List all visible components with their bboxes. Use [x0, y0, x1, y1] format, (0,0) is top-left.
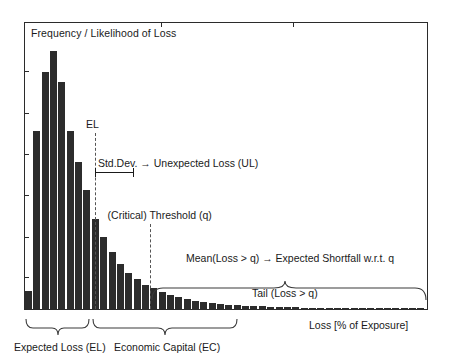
histogram-bar [401, 308, 408, 309]
histogram-bar [142, 285, 149, 310]
critical-threshold-marker-line [150, 224, 151, 309]
y-axis-tick [24, 71, 29, 72]
expected-shortfall-annotation: Mean(Loss > q) → Expected Shortfall w.r.… [186, 252, 394, 264]
histogram-bar [67, 131, 74, 309]
histogram-bar [25, 291, 32, 309]
x-axis-title: Loss [% of Exposure] [309, 319, 408, 331]
histogram-bar [100, 237, 107, 309]
histogram-bar [125, 273, 132, 309]
histogram-bar [209, 303, 216, 309]
histogram-bar [317, 308, 324, 309]
histogram-bar [276, 307, 283, 309]
std-dev-cap-right [133, 168, 134, 177]
histogram-bar [351, 308, 358, 309]
histogram-bar [200, 302, 207, 309]
histogram-bar [284, 307, 291, 309]
histogram-bar [167, 295, 174, 309]
histogram-bar [75, 162, 82, 309]
std-dev-stem [95, 172, 134, 173]
histogram-bar [242, 306, 249, 309]
histogram-bar [175, 297, 182, 309]
histogram-bar [58, 82, 65, 309]
histogram-bar [292, 307, 299, 309]
histogram-bar [342, 308, 349, 309]
expected-loss-marker-line [95, 133, 96, 309]
histogram-bar [42, 72, 49, 309]
histogram-bar [367, 308, 374, 309]
histogram-bar [301, 308, 308, 309]
histogram-bar [392, 308, 399, 309]
histogram-bar [33, 131, 40, 309]
histogram-bar [159, 292, 166, 309]
expected-loss-brace [26, 319, 89, 335]
x-axis-tick [293, 22, 294, 27]
histogram-bar [334, 308, 341, 309]
histogram-bar [409, 308, 416, 309]
expected-loss-marker-label: EL [86, 118, 99, 130]
y-axis-tick [24, 277, 29, 278]
histogram-bar [384, 308, 391, 309]
x-axis-tick [161, 22, 162, 27]
expected-loss-brace-label: Expected Loss (EL) [14, 341, 106, 353]
histogram-bar [192, 301, 199, 310]
histogram-bar [217, 304, 224, 309]
y-axis-tick [24, 154, 29, 155]
histogram-bar [250, 306, 257, 309]
y-axis-tick [24, 195, 29, 196]
tail-annotation: Tail (Loss > q) [252, 287, 318, 299]
histogram-bar [134, 279, 141, 309]
histogram-bar [50, 51, 57, 309]
y-axis-tick [24, 237, 29, 238]
histogram-bar [326, 308, 333, 309]
histogram-bar [234, 305, 241, 309]
histogram-bar [376, 308, 383, 309]
histogram-bar [225, 305, 232, 309]
economic-capital-brace-label: Economic Capital (EC) [114, 341, 220, 353]
histogram-bar [117, 264, 124, 309]
histogram-bar [417, 308, 424, 309]
figure-canvas: Frequency / Likelihood of Loss EL (Criti… [0, 0, 451, 361]
std-dev-measure-bar [95, 168, 134, 177]
histogram-bar [267, 307, 274, 309]
histogram-bar [109, 252, 116, 309]
economic-capital-brace [93, 319, 237, 335]
histogram-bar [184, 299, 191, 309]
critical-threshold-marker-label: (Critical) Threshold (q) [108, 209, 212, 221]
histogram-bar [150, 288, 157, 309]
y-axis-tick [24, 113, 29, 114]
histogram-bar [259, 306, 266, 309]
histogram-bar [83, 190, 90, 309]
histogram-bar [359, 308, 366, 309]
histogram-bar [309, 308, 316, 309]
